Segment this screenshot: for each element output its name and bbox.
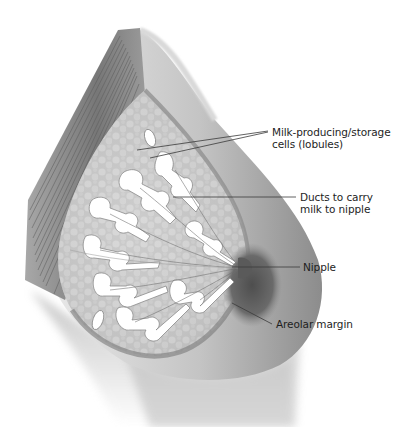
label-areolar-margin: Areolar margin — [276, 318, 353, 330]
label-areolar-line1: Areolar margin — [276, 318, 353, 330]
label-ducts: Ducts to carry milk to nipple — [300, 191, 373, 215]
breast-anatomy-diagram: Milk-producing/storage cells (lobules) D… — [0, 0, 397, 427]
label-nipple-line1: Nipple — [303, 261, 336, 273]
label-nipple: Nipple — [303, 261, 336, 273]
label-ducts-line2: milk to nipple — [300, 203, 373, 215]
label-lobules-line1: Milk-producing/storage — [272, 126, 391, 138]
label-ducts-line1: Ducts to carry — [300, 191, 373, 203]
label-lobules: Milk-producing/storage cells (lobules) — [272, 126, 391, 150]
label-lobules-line2: cells (lobules) — [272, 138, 391, 150]
